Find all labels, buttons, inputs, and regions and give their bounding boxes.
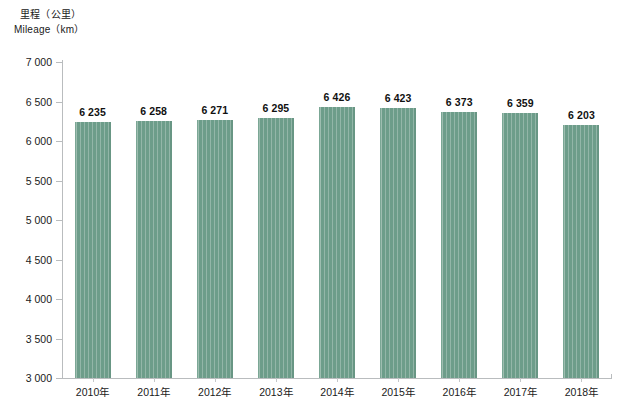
y-axis-label: 5 000 bbox=[4, 214, 52, 226]
x-axis-tick bbox=[154, 378, 155, 382]
y-axis-tick bbox=[56, 378, 62, 379]
y-axis-label: 5 500 bbox=[4, 175, 52, 187]
x-axis-label: 2011年 bbox=[137, 384, 170, 399]
bar-value-label: 6 271 bbox=[201, 104, 228, 116]
y-axis-label: 3 500 bbox=[4, 333, 52, 345]
x-axis-tick bbox=[337, 378, 338, 382]
bar[interactable] bbox=[75, 122, 111, 378]
bar-group[interactable]: 6 235 bbox=[75, 62, 111, 378]
y-axis-label: 6 500 bbox=[4, 96, 52, 108]
bar-chart: 里程（公里） Mileage（km） 3 0003 5004 0004 5005… bbox=[0, 0, 624, 420]
bar-value-label: 6 203 bbox=[568, 109, 595, 121]
bar-group[interactable]: 6 423 bbox=[380, 62, 416, 378]
x-axis-label: 2012年 bbox=[198, 384, 231, 399]
bar[interactable] bbox=[380, 108, 416, 378]
x-axis-label: 2013年 bbox=[259, 384, 292, 399]
bar-value-label: 6 423 bbox=[385, 92, 412, 104]
bar-group[interactable]: 6 203 bbox=[563, 62, 599, 378]
plot-area: 6 2356 2586 2716 2956 4266 4236 3736 359… bbox=[62, 62, 612, 378]
bar-value-label: 6 235 bbox=[79, 106, 106, 118]
x-axis-tick bbox=[398, 378, 399, 382]
x-axis-tick bbox=[520, 378, 521, 382]
x-axis-tick bbox=[276, 378, 277, 382]
x-axis-label: 2014年 bbox=[320, 384, 353, 399]
x-axis-label: 2018年 bbox=[565, 384, 598, 399]
bar-group[interactable]: 6 295 bbox=[258, 62, 294, 378]
x-axis-tick bbox=[215, 378, 216, 382]
bar-group[interactable]: 6 258 bbox=[136, 62, 172, 378]
bar-value-label: 6 258 bbox=[140, 105, 167, 117]
bar[interactable] bbox=[441, 112, 477, 378]
axis-title-chinese: 里程（公里） bbox=[14, 8, 85, 23]
bar[interactable] bbox=[258, 118, 294, 378]
x-axis-label: 2017年 bbox=[504, 384, 537, 399]
bar-value-label: 6 295 bbox=[262, 102, 289, 114]
bar-value-label: 6 373 bbox=[446, 96, 473, 108]
y-axis-label: 7 000 bbox=[4, 56, 52, 68]
x-axis-tick bbox=[459, 378, 460, 382]
x-axis-tick bbox=[581, 378, 582, 382]
bar-group[interactable]: 6 426 bbox=[319, 62, 355, 378]
bar[interactable] bbox=[563, 125, 599, 378]
x-axis-label: 2010年 bbox=[76, 384, 109, 399]
bar[interactable] bbox=[136, 121, 172, 378]
axis-title-block: 里程（公里） Mileage（km） bbox=[14, 8, 85, 37]
axis-title-english: Mileage（km） bbox=[14, 23, 85, 38]
x-axis-label: 2015年 bbox=[381, 384, 414, 399]
bar-group[interactable]: 6 359 bbox=[502, 62, 538, 378]
y-axis-label: 4 500 bbox=[4, 254, 52, 266]
bar-value-label: 6 426 bbox=[324, 91, 351, 103]
bar-value-label: 6 359 bbox=[507, 97, 534, 109]
bar[interactable] bbox=[319, 107, 355, 378]
y-axis-label: 4 000 bbox=[4, 293, 52, 305]
bar[interactable] bbox=[197, 120, 233, 378]
y-axis-label: 3 000 bbox=[4, 372, 52, 384]
bar-group[interactable]: 6 271 bbox=[197, 62, 233, 378]
x-axis-label: 2016年 bbox=[443, 384, 476, 399]
bar-group[interactable]: 6 373 bbox=[441, 62, 477, 378]
y-axis-label: 6 000 bbox=[4, 135, 52, 147]
x-axis-tick bbox=[93, 378, 94, 382]
bar[interactable] bbox=[502, 113, 538, 378]
